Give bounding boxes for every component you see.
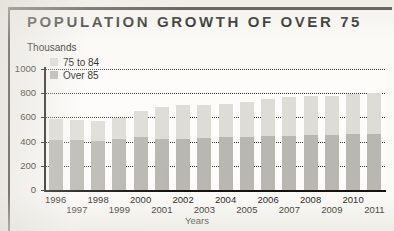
bar-segment-75-to-84 [70, 120, 84, 140]
bar-segment-over-85 [325, 135, 339, 190]
bar-segment-over-85 [112, 139, 126, 190]
bar-stack [197, 69, 211, 190]
bar-stack [367, 69, 381, 190]
legend-item: Over 85 [50, 69, 99, 81]
bar-segment-over-85 [91, 141, 105, 190]
chart-figure: POPULATION GROWTH OF OVER 75 Thousands 0… [0, 0, 394, 231]
bar-segment-over-85 [134, 137, 148, 190]
bar-stack [49, 69, 63, 190]
bar-segment-75-to-84 [304, 96, 318, 135]
bar-stack [70, 69, 84, 190]
bar-segment-over-85 [49, 140, 63, 190]
y-axis-line [44, 67, 46, 192]
bar-segment-over-85 [367, 134, 381, 190]
bar-segment-over-85 [176, 139, 190, 190]
bar-segment-75-to-84 [112, 118, 126, 139]
bar-segment-over-85 [219, 137, 233, 190]
bar-segment-75-to-84 [346, 94, 360, 134]
top-border-rule [8, 7, 392, 10]
bar-segment-75-to-84 [134, 111, 148, 137]
bar-segment-over-85 [261, 136, 275, 190]
bar-segment-75-to-84 [367, 93, 381, 134]
page-title: POPULATION GROWTH OF OVER 75 [27, 13, 362, 30]
legend-label: 75 to 84 [63, 57, 99, 68]
y-tick-label: 600 [2, 111, 36, 122]
bar-stack [240, 69, 254, 190]
y-tick-mark [41, 142, 45, 143]
x-tick-label: 2003 [184, 204, 224, 215]
bar-stack [91, 69, 105, 190]
bar-segment-75-to-84 [155, 107, 169, 139]
bar-stack [261, 69, 275, 190]
y-tick-label: 200 [2, 160, 36, 171]
y-tick-label: 400 [2, 136, 36, 147]
bar-stack [134, 69, 148, 190]
y-tick-label: 0 [2, 184, 36, 195]
bar-segment-75-to-84 [176, 105, 190, 138]
y-tick-mark [41, 190, 45, 191]
x-axis-label: Years [0, 215, 394, 226]
x-tick-label: 2001 [142, 204, 182, 215]
bar-segment-75-to-84 [282, 97, 296, 135]
bar-segment-75-to-84 [197, 105, 211, 138]
legend-swatch-over-85 [50, 71, 58, 79]
x-tick-label: 2007 [269, 204, 309, 215]
bar-stack [282, 69, 296, 190]
bar-segment-over-85 [346, 134, 360, 190]
legend-label: Over 85 [63, 70, 99, 81]
bar-segment-over-85 [70, 140, 84, 190]
y-tick-mark [41, 93, 45, 94]
bar-stack [346, 69, 360, 190]
bar-stack [112, 69, 126, 190]
bar-stack [176, 69, 190, 190]
y-tick-label: 800 [2, 87, 36, 98]
bar-segment-over-85 [240, 137, 254, 190]
bar-stack [304, 69, 318, 190]
bar-segment-75-to-84 [219, 104, 233, 138]
plot-area [45, 69, 385, 190]
y-tick-label: 1000 [2, 63, 36, 74]
bar-segment-over-85 [282, 136, 296, 190]
x-axis-line [44, 190, 386, 192]
legend: 75 to 84 Over 85 [50, 56, 99, 82]
bar-segment-75-to-84 [240, 102, 254, 136]
bar-segment-over-85 [197, 138, 211, 190]
y-tick-mark [41, 117, 45, 118]
bar-segment-75-to-84 [325, 96, 339, 135]
legend-item: 75 to 84 [50, 56, 99, 68]
bar-segment-75-to-84 [91, 121, 105, 141]
bar-stack [325, 69, 339, 190]
bar-stack [155, 69, 169, 190]
x-tick-label: 2011 [354, 204, 394, 215]
bar-segment-over-85 [304, 135, 318, 190]
x-tick-label: 2009 [312, 204, 352, 215]
y-tick-mark [41, 69, 45, 70]
bar-segment-75-to-84 [49, 119, 63, 141]
legend-swatch-75-to-84 [50, 58, 58, 66]
bar-segment-75-to-84 [261, 99, 275, 136]
x-tick-label: 2005 [227, 204, 267, 215]
x-tick-label: 1999 [99, 204, 139, 215]
y-tick-mark [41, 166, 45, 167]
bar-segment-over-85 [155, 139, 169, 190]
y-axis-caption: Thousands [27, 42, 76, 53]
x-tick-label: 1997 [57, 204, 97, 215]
bar-stack [219, 69, 233, 190]
